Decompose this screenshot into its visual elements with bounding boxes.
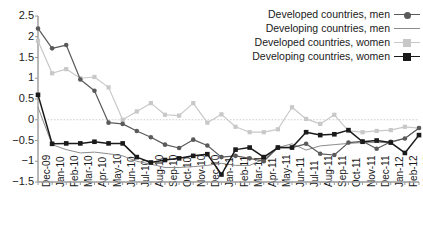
legend-item[interactable]: Developing countries, men bbox=[228, 22, 420, 35]
legend-label: Developed countries, women bbox=[255, 37, 390, 48]
legend-swatch bbox=[394, 37, 420, 48]
chart-legend: Developed countries, menDeveloping count… bbox=[228, 8, 420, 64]
legend-label: Developing countries, men bbox=[266, 23, 390, 34]
legend-swatch bbox=[394, 9, 420, 20]
legend-item[interactable]: Developed countries, men bbox=[228, 8, 420, 21]
legend-swatch bbox=[394, 51, 420, 62]
legend-item[interactable]: Developed countries, women bbox=[228, 36, 420, 49]
legend-label: Developing countries, women bbox=[252, 51, 390, 62]
legend-label: Developed countries, men bbox=[268, 9, 390, 20]
legend-item[interactable]: Developing countries, women bbox=[228, 50, 420, 63]
line-chart: 2.521.510.50−0.5−1−1.5 Dec-09Jan-10Feb-1… bbox=[0, 0, 423, 232]
series-1 bbox=[38, 107, 419, 167]
legend-swatch bbox=[394, 23, 420, 34]
